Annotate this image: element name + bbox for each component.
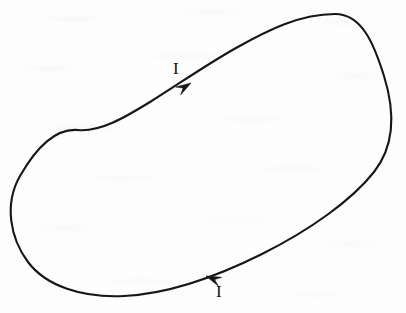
current-label-top: I: [173, 60, 179, 77]
current-label-bottom: I: [216, 283, 222, 300]
current-loop-diagram: [0, 0, 406, 313]
figure-canvas: I I: [0, 0, 406, 313]
current-loop-curve: [11, 14, 391, 296]
